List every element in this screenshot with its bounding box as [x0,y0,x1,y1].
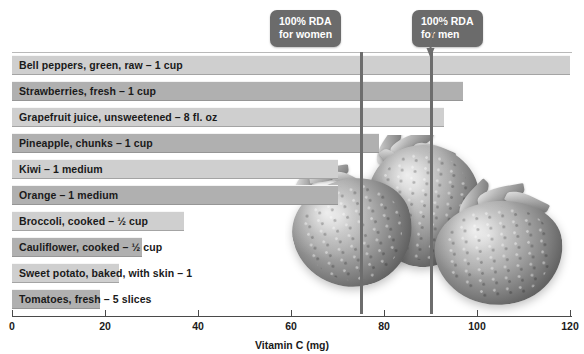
bar-row: Bell peppers, green, raw – 1 cup [12,55,570,75]
bar-label: Strawberries, fresh – 1 cup [19,81,156,101]
x-axis-tick-label: 100 [468,320,486,332]
x-axis-tick-label: 0 [9,320,15,332]
vitamin-c-bar-chart: Bell peppers, green, raw – 1 cupStrawber… [0,0,584,354]
x-axis-tick-label: 80 [378,320,390,332]
bar-row: Kiwi – 1 medium [12,159,338,179]
leaf-icon [379,145,413,184]
leaf-icon [412,138,457,168]
bar-row: Grapefruit juice, unsweetened – 8 fl. oz [12,107,444,127]
rda-callout-women: 100% RDAfor women [270,10,341,47]
strawberry-shape [361,139,485,272]
x-axis-title: Vitamin C (mg) [0,339,584,351]
x-axis-tick [477,310,478,316]
x-axis-tick-label: 20 [99,320,111,332]
bar-label: Tomatoes, fresh – 5 slices [19,289,152,309]
bar-row: Sweet potato, baked, with skin – 1 [12,263,119,283]
bar-label: Cauliflower, cooked – ½ cup [19,237,162,257]
x-axis-tick [105,310,106,316]
x-axis-tick-label: 60 [285,320,297,332]
rda-callout-line1: 100% RDA [421,15,474,28]
plot-top-border [12,52,572,53]
rda-callout-line1: 100% RDA [279,15,332,28]
leaf-icon [476,183,526,207]
x-axis-tick [570,310,571,316]
rda-callout-men: 100% RDAfor men [412,10,483,47]
bar-label: Orange – 1 medium [19,185,118,205]
bar-row: Pineapple, chunks – 1 cup [12,133,379,153]
bar-row: Cauliflower, cooked – ½ cup [12,237,142,257]
leaf-icon [454,178,494,219]
bar-label: Kiwi – 1 medium [19,159,103,179]
x-axis-tick-label: 120 [561,320,579,332]
bar-label: Pineapple, chunks – 1 cup [19,133,153,153]
x-axis-tick [198,310,199,316]
rda-line-women [360,52,363,314]
bar-row: Broccoli, cooked – ½ cup [12,211,184,231]
rda-line-men [430,52,433,314]
rda-callout-line2: for men [421,28,474,41]
bar-label: Sweet potato, baked, with skin – 1 [19,263,192,283]
x-axis-line [12,316,572,317]
bar-label: Bell peppers, green, raw – 1 cup [19,55,183,75]
x-axis-tick [384,310,385,316]
bar-row: Tomatoes, fresh – 5 slices [12,289,100,309]
x-axis-tick [291,310,292,316]
leaf-icon [504,186,550,219]
rda-callout-line2: for women [279,28,332,41]
bar-row: Strawberries, fresh – 1 cup [12,81,463,101]
strawberry-shape [430,195,568,312]
x-axis-tick [12,310,13,316]
x-axis-tick-label: 40 [192,320,204,332]
bar-label: Grapefruit juice, unsweetened – 8 fl. oz [19,107,217,127]
bar-label: Broccoli, cooked – ½ cup [19,211,148,231]
bar-row: Orange – 1 medium [12,185,338,205]
